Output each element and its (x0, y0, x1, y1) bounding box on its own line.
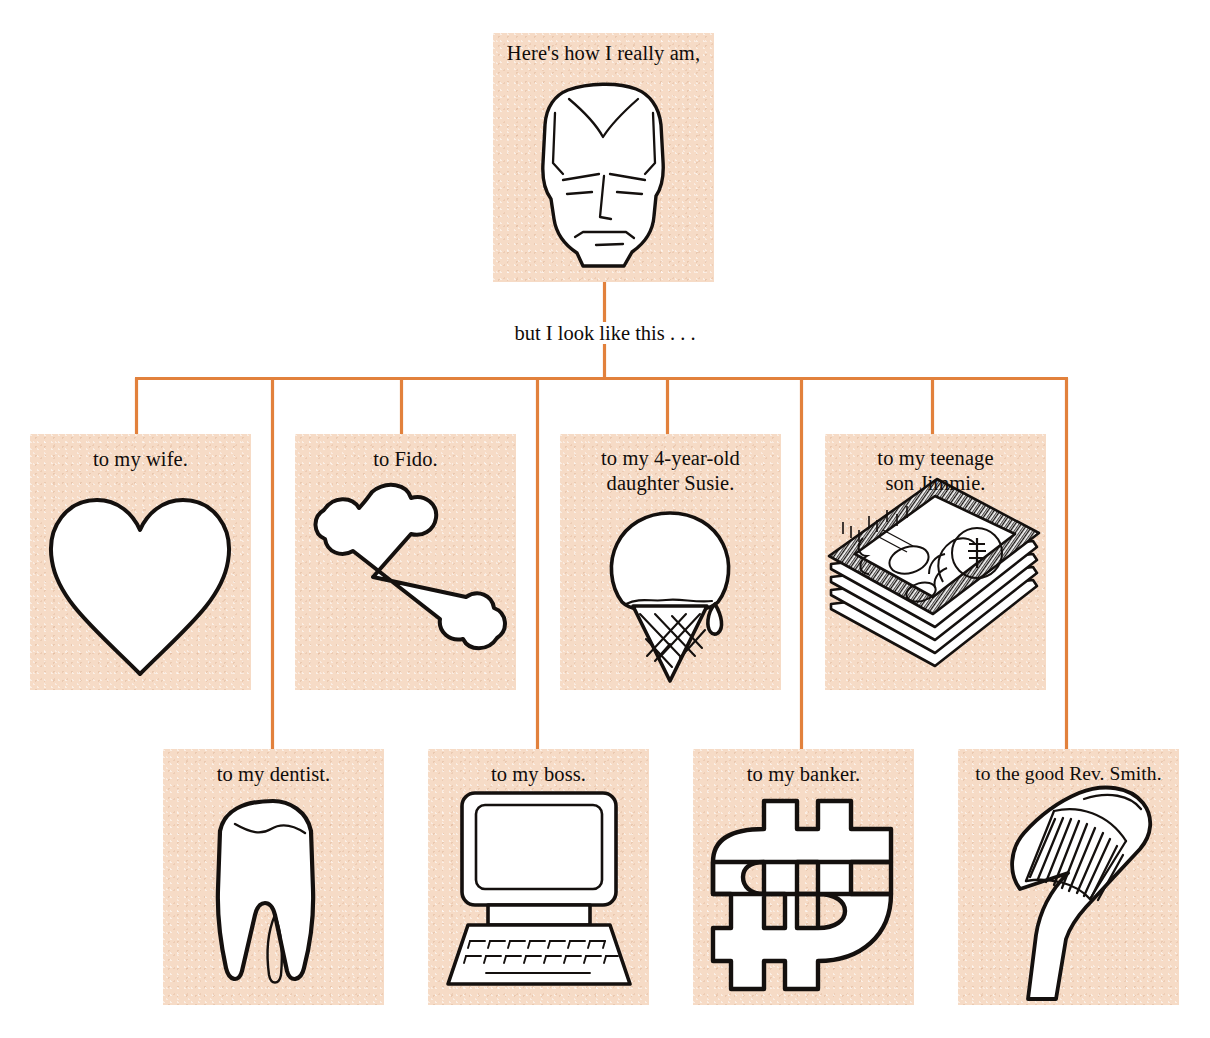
branch-label-boss: to my boss. (428, 762, 649, 787)
dog-bone-icon (295, 434, 516, 690)
page-title: Here's how I really am, (493, 41, 714, 66)
branch-label-fido: to Fido. (295, 447, 516, 472)
branch-label-rev: to the good Rev. Smith. (958, 762, 1179, 787)
branch-panel-banker[interactable]: to my banker. (693, 749, 914, 1005)
branch-label-banker: to my banker. (693, 762, 914, 787)
dollar-sign-icon (693, 749, 914, 1005)
tooth-icon (163, 749, 384, 1005)
branch-label-dentist: to my dentist. (163, 762, 384, 787)
branch-panel-jimmie[interactable]: to my teenage son Jimmie. (825, 434, 1046, 690)
connector-caption: but I look like this . . . (0, 322, 1210, 345)
computer-icon (428, 749, 649, 1005)
branch-panel-boss[interactable]: to my boss. (428, 749, 649, 1005)
branch-panel-wife[interactable]: to my wife. (30, 434, 251, 690)
diagram-canvas: Here's how I really am, (0, 0, 1210, 1038)
golf-club-icon (958, 749, 1179, 1005)
branch-panel-fido[interactable]: to Fido. (295, 434, 516, 690)
branch-panel-rev[interactable]: to the good Rev. Smith. (958, 749, 1179, 1005)
branch-label-jimmie: to my teenage son Jimmie. (825, 446, 1046, 495)
branch-panel-susie[interactable]: to my 4-year-old daughter Susie. (560, 434, 781, 690)
branch-label-susie: to my 4-year-old daughter Susie. (560, 446, 781, 495)
mans-face-icon (493, 33, 714, 282)
branch-label-wife: to my wife. (30, 447, 251, 472)
heart-icon (30, 434, 251, 690)
branch-panel-dentist[interactable]: to my dentist. (163, 749, 384, 1005)
root-panel-face[interactable]: Here's how I really am, (493, 33, 714, 282)
